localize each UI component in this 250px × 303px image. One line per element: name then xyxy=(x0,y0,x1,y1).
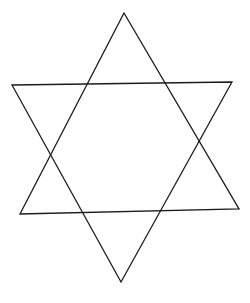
hexagram-svg xyxy=(0,0,250,303)
upward-triangle xyxy=(20,13,239,214)
downward-triangle xyxy=(12,82,232,282)
hexagram-diagram xyxy=(0,0,250,303)
